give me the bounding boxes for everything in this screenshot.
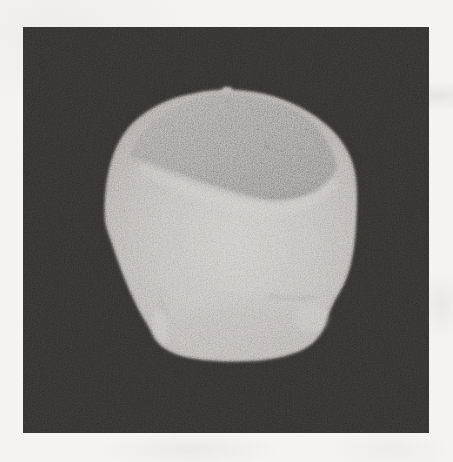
film-grain-overlay xyxy=(23,27,429,433)
figure-frame: 3D surface rendering of a human head see… xyxy=(23,27,429,433)
scanned-page: 3D surface rendering of a human head see… xyxy=(0,0,453,462)
head-render-svg: 3D surface rendering of a human head see… xyxy=(23,27,429,433)
